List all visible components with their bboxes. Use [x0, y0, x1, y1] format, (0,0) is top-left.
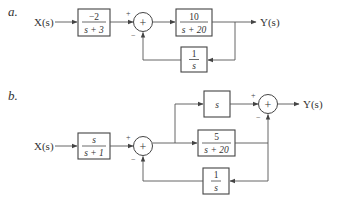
block-a1-num: −2 — [89, 12, 99, 22]
block-b1: s s + 1 — [78, 133, 110, 159]
summing-junction-b2: + + − — [251, 91, 278, 122]
feedback-b-den: s — [214, 183, 218, 193]
block-b1-den: s + 1 — [84, 148, 104, 158]
sign-minus: − — [256, 113, 261, 122]
plus-symbol: + — [140, 140, 147, 154]
feedback-a-den: s — [192, 61, 196, 71]
upper-block-b: s — [204, 91, 230, 117]
feedback-b-num: 1 — [214, 170, 219, 180]
sign-minus: − — [131, 31, 136, 40]
block-a2-num: 10 — [189, 12, 199, 22]
block-a2-den: s + 20 — [182, 25, 207, 35]
plus-symbol: + — [265, 98, 272, 112]
part-label-b: b. — [8, 88, 18, 103]
block-a1-den: s + 3 — [84, 25, 104, 35]
feedback-return-b — [143, 157, 203, 182]
diagram-a: a. X(s) −2 s + 3 + + − 10 s + 20 Y(s) — [8, 4, 280, 72]
sign-plus: + — [126, 9, 131, 18]
input-label-a: X(s) — [34, 16, 54, 29]
sign-plus: + — [251, 91, 256, 100]
summing-junction-b1: + + − — [126, 133, 153, 164]
middle-block-den: s + 20 — [204, 145, 229, 155]
block-a2: 10 s + 20 — [176, 9, 212, 36]
feedback-block-b: 1 s — [203, 168, 229, 194]
sign-minus: − — [131, 155, 136, 164]
block-diagrams: a. X(s) −2 s + 3 + + − 10 s + 20 Y(s) — [0, 0, 337, 209]
input-label-b: X(s) — [34, 140, 54, 153]
block-b1-num: s — [92, 135, 96, 145]
feedback-block-a: 1 s — [181, 47, 207, 72]
feedback-a-num: 1 — [192, 49, 197, 59]
block-a1: −2 s + 3 — [78, 9, 110, 36]
output-label-a: Y(s) — [260, 16, 280, 29]
part-label-a: a. — [8, 4, 18, 19]
middle-block-num: 5 — [214, 132, 219, 142]
summing-junction-a: + + − — [126, 9, 153, 40]
feedback-return-a — [143, 33, 181, 61]
upper-block-label: s — [215, 100, 219, 110]
diagram-b: b. X(s) s s + 1 + + − s 5 — [8, 88, 323, 194]
plus-symbol: + — [140, 16, 147, 30]
middle-block-b: 5 s + 20 — [198, 130, 235, 156]
output-label-b: Y(s) — [303, 98, 323, 111]
sign-plus: + — [126, 133, 131, 142]
